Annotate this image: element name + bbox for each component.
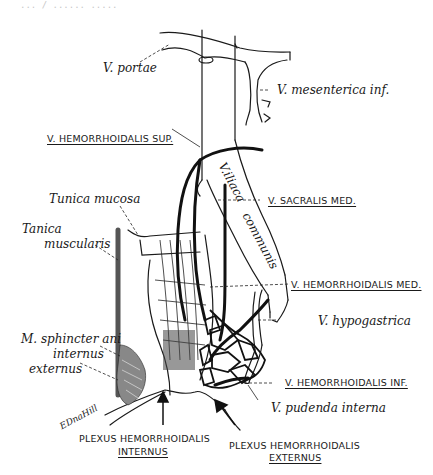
label-v-pudenda-interna: V. pudenda interna (271, 402, 386, 414)
label-v-sacralis-med: V. SACRALIS MED. (268, 196, 356, 206)
label-plexus-internus-2: INTERNUS (118, 447, 168, 457)
label-externus: externus (29, 363, 82, 375)
label-m-sphincter-ani: M. sphincter ani (21, 333, 121, 345)
venous-anatomy-diagram: ... / ...... ..... (0, 0, 433, 475)
label-v-portae: V. portae (103, 62, 157, 74)
label-tunica-mucosa: Tunica mucosa (49, 193, 140, 205)
sphincter-muscle (117, 345, 146, 405)
label-v-hemorrhoidalis-inf: V. HEMORRHOIDALIS INF. (285, 378, 408, 388)
portal-vein-upper (160, 32, 290, 52)
label-plexus-externus-2: EXTERNUS (269, 453, 321, 463)
label-plexus-externus-1: PLEXUS HEMORRHOIDALIS (229, 441, 360, 451)
label-v-hypogastrica: V. hypogastrica (318, 315, 411, 327)
label-tunica-muscularis-2: muscularis (44, 238, 110, 250)
hatched-plexus (163, 330, 195, 370)
label-tunica-muscularis-1: Tanica (22, 223, 62, 235)
label-v-mesenterica-inf: V. mesenterica inf. (277, 84, 389, 96)
label-plexus-internus-1: PLEXUS HEMORRHOIDALIS (79, 434, 210, 444)
label-v-hemorrhoidalis-med: V. HEMORRHOIDALIS MED. (291, 280, 421, 290)
label-internus: internus (53, 348, 104, 360)
label-v-hemorrhoidalis-sup: V. HEMORRHOIDALIS SUP. (47, 134, 173, 144)
